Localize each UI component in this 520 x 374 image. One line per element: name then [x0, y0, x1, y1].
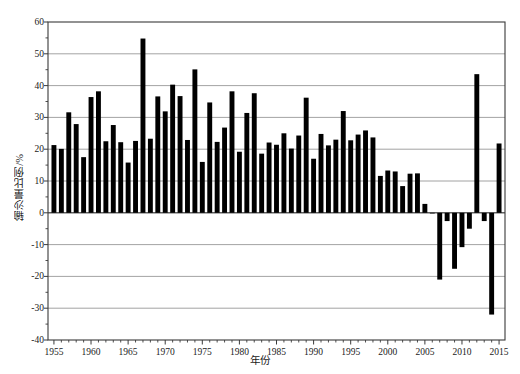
x-axis-title: 年份: [0, 352, 520, 367]
bar-chart: 输沙量比例/% 6050403020100-10-20-30-40 195519…: [0, 0, 520, 374]
x-axis-tick-labels: 1955196019651970197519801985199019952000…: [0, 0, 520, 374]
